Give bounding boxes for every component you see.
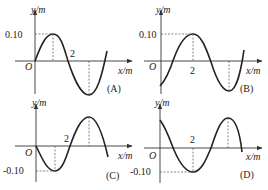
- amplitude-label: 0.10: [139, 29, 157, 40]
- x-axis-label: x/m: [117, 65, 132, 76]
- option-label: (A): [107, 83, 121, 95]
- option-label: (D): [240, 169, 254, 181]
- panel-b: y/m 0.10 O 2 x/m (B): [139, 4, 262, 95]
- y-axis-label: y/m: [30, 4, 45, 15]
- x-axis-label: x/m: [245, 65, 260, 76]
- amplitude-label: -0.10: [3, 165, 24, 176]
- panel-c: y/m -0.10 O 2 x/m (C): [3, 97, 132, 182]
- x-tick-label: 2: [190, 65, 195, 76]
- x-axis-label: x/m: [245, 151, 260, 162]
- amplitude-label: 0.10: [5, 29, 23, 40]
- amplitude-label: -0.10: [130, 166, 151, 177]
- y-axis-label: y/m: [155, 4, 170, 15]
- x-axis-label: x/m: [117, 150, 132, 161]
- wave-curve: [160, 34, 244, 91]
- x-tick-label: 2: [64, 133, 69, 144]
- wave-options-figure: y/m 0.10 O 2 x/m (A) y/m 0.10 O 2 x/m (B…: [0, 0, 268, 190]
- panel-a: y/m 0.10 O 2 x/m (A): [5, 4, 132, 95]
- origin-label: O: [25, 147, 32, 158]
- wave-curve: [160, 118, 242, 172]
- option-label: (B): [240, 83, 253, 95]
- origin-label: O: [149, 150, 156, 161]
- y-axis-label: y/m: [154, 97, 169, 108]
- x-tick-label: 2: [70, 48, 75, 59]
- x-tick-label: 2: [190, 134, 195, 145]
- origin-label: O: [25, 61, 32, 72]
- wave-curve: [36, 117, 108, 171]
- option-label: (C): [106, 170, 119, 182]
- origin-label: O: [149, 61, 156, 72]
- y-axis-label: y/m: [31, 97, 46, 108]
- wave-curve: [35, 34, 107, 95]
- panel-d: y/m -0.10 O 2 x/m (D): [130, 97, 262, 183]
